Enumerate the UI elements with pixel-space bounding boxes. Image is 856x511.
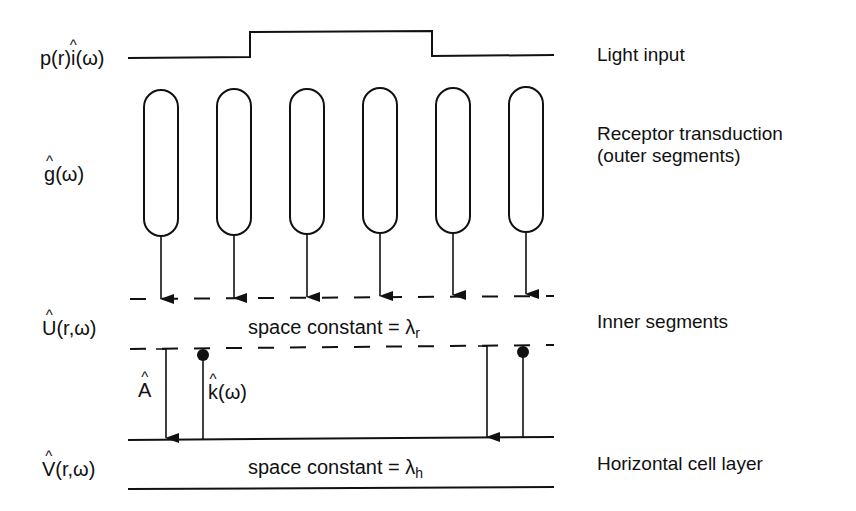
hat-letter: k [208,382,218,402]
inner-segment-symbol: U(r,ω) [42,318,97,338]
layer-label-light-input: Light input [597,45,685,65]
space-constant-subscript: r [415,325,420,341]
receptor-symbol: g(ω) [44,164,84,184]
feedback-synapse-dot-icon [517,346,529,358]
hat-letter: U [42,318,56,338]
layer-label-horizontal-cell: Horizontal cell layer [597,454,763,474]
horizontal-space-constant-label: space constant = λh [248,456,423,481]
receptor-4 [363,88,397,233]
horizontal-layer-top-line [128,437,554,440]
feedforward-arrow [156,349,166,438]
feedforward-symbol: A [138,380,151,400]
symbol-suffix: (ω) [55,163,84,185]
symbol-prefix: p(r) [40,47,71,69]
inner-segment-bottom-boundary [130,345,554,349]
feedback-symbol: k(ω) [208,382,247,402]
space-constant-text: space constant = λ [248,316,415,338]
symbol-suffix: (r,ω) [55,458,95,480]
inner-segment-top-boundary [130,296,554,299]
feedback-synapse-dot-icon [197,349,209,361]
layer-label-inner-segments: Inner segments [597,312,728,332]
receptor-outer-segments [144,87,543,236]
horizontal-cell-symbol: V(r,ω) [42,459,95,479]
symbol-suffix: (r,ω) [56,317,96,339]
hat-letter: g [44,164,55,184]
receptor-3 [290,89,324,234]
hat-letter: A [138,380,151,400]
feedforward-arrow-right [478,346,487,437]
receptor-arrows [161,232,526,299]
receptor-2 [217,89,251,235]
inner-space-constant-label: space constant = λr [248,316,420,341]
light-input-symbol: p(r)i(ω) [40,48,105,68]
light-input-step-signal [128,31,554,58]
symbol-suffix: (ω) [218,381,247,403]
receptor-5 [436,88,470,233]
feedback-connection-right [517,346,529,437]
layer-label-receptor-line2: (outer segments) [597,146,741,166]
space-constant-text: space constant = λ [248,456,415,478]
horizontal-layer-bottom-line [128,487,554,489]
receptor-1 [144,90,178,236]
retina-diagram [0,0,856,511]
receptor-6 [509,87,543,232]
hat-letter: V [42,459,55,479]
symbol-suffix: (ω) [76,47,105,69]
layer-label-receptor: Receptor transduction [597,124,783,144]
hat-letter: i [71,48,75,68]
space-constant-subscript: h [415,465,423,481]
